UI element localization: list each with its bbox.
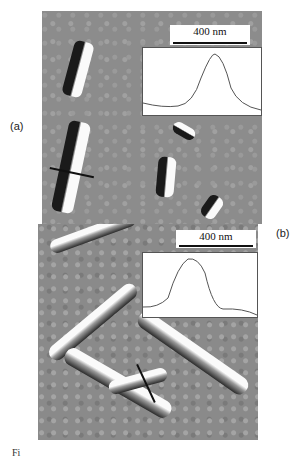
height-profile-inset (142, 47, 262, 116)
nanorod (155, 156, 176, 197)
panel-a-label: (a) (10, 120, 23, 132)
profile-curve (143, 253, 257, 317)
afm-image-panel-a: 400 nm (42, 11, 262, 224)
caption-fragment: Fi (12, 447, 20, 458)
profile-curve (143, 48, 261, 115)
nanorod-bundle (46, 281, 141, 364)
nanorod (171, 120, 198, 142)
scale-bar: 400 nm (170, 25, 250, 45)
nanorod (199, 193, 226, 222)
afm-image-panel-b: 400 nm (38, 224, 258, 440)
scale-bar-label: 400 nm (199, 230, 232, 242)
scale-bar: 400 nm (176, 230, 256, 248)
scale-bar-label: 400 nm (193, 25, 226, 37)
nanorod-bundle (48, 224, 137, 255)
height-profile-inset (142, 252, 258, 318)
panel-b-label: (b) (276, 227, 289, 239)
nanorod (61, 39, 95, 98)
nanorod (51, 120, 92, 215)
